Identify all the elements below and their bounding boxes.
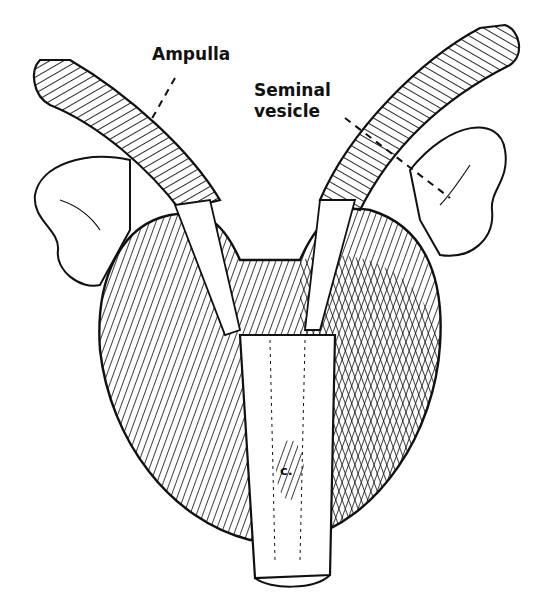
label-seminal-vesicle-line2: vesicle	[254, 101, 320, 121]
right-seminal-vesicle	[410, 127, 506, 255]
label-ampulla: Ampulla	[152, 44, 230, 64]
urethra	[240, 335, 335, 587]
label-colliculus: c.	[280, 463, 293, 478]
ampulla-leader	[150, 78, 175, 122]
label-seminal-vesicle-line1: Seminal	[254, 80, 331, 100]
